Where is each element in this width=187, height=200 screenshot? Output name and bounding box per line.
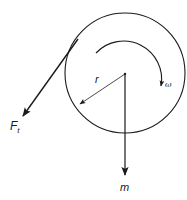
mass-label: m [120,181,129,193]
radius-arrow [80,74,125,104]
pulley-free-body-diagram: r ω Ft m [0,0,187,200]
angular-velocity-label: ω [165,80,172,89]
tangential-force-label: Ft [10,119,20,135]
tangential-force-arrow [23,39,78,116]
radius-label: r [95,73,100,85]
tangential-force-subscript: t [17,126,20,135]
rotation-arc-icon [96,41,162,86]
